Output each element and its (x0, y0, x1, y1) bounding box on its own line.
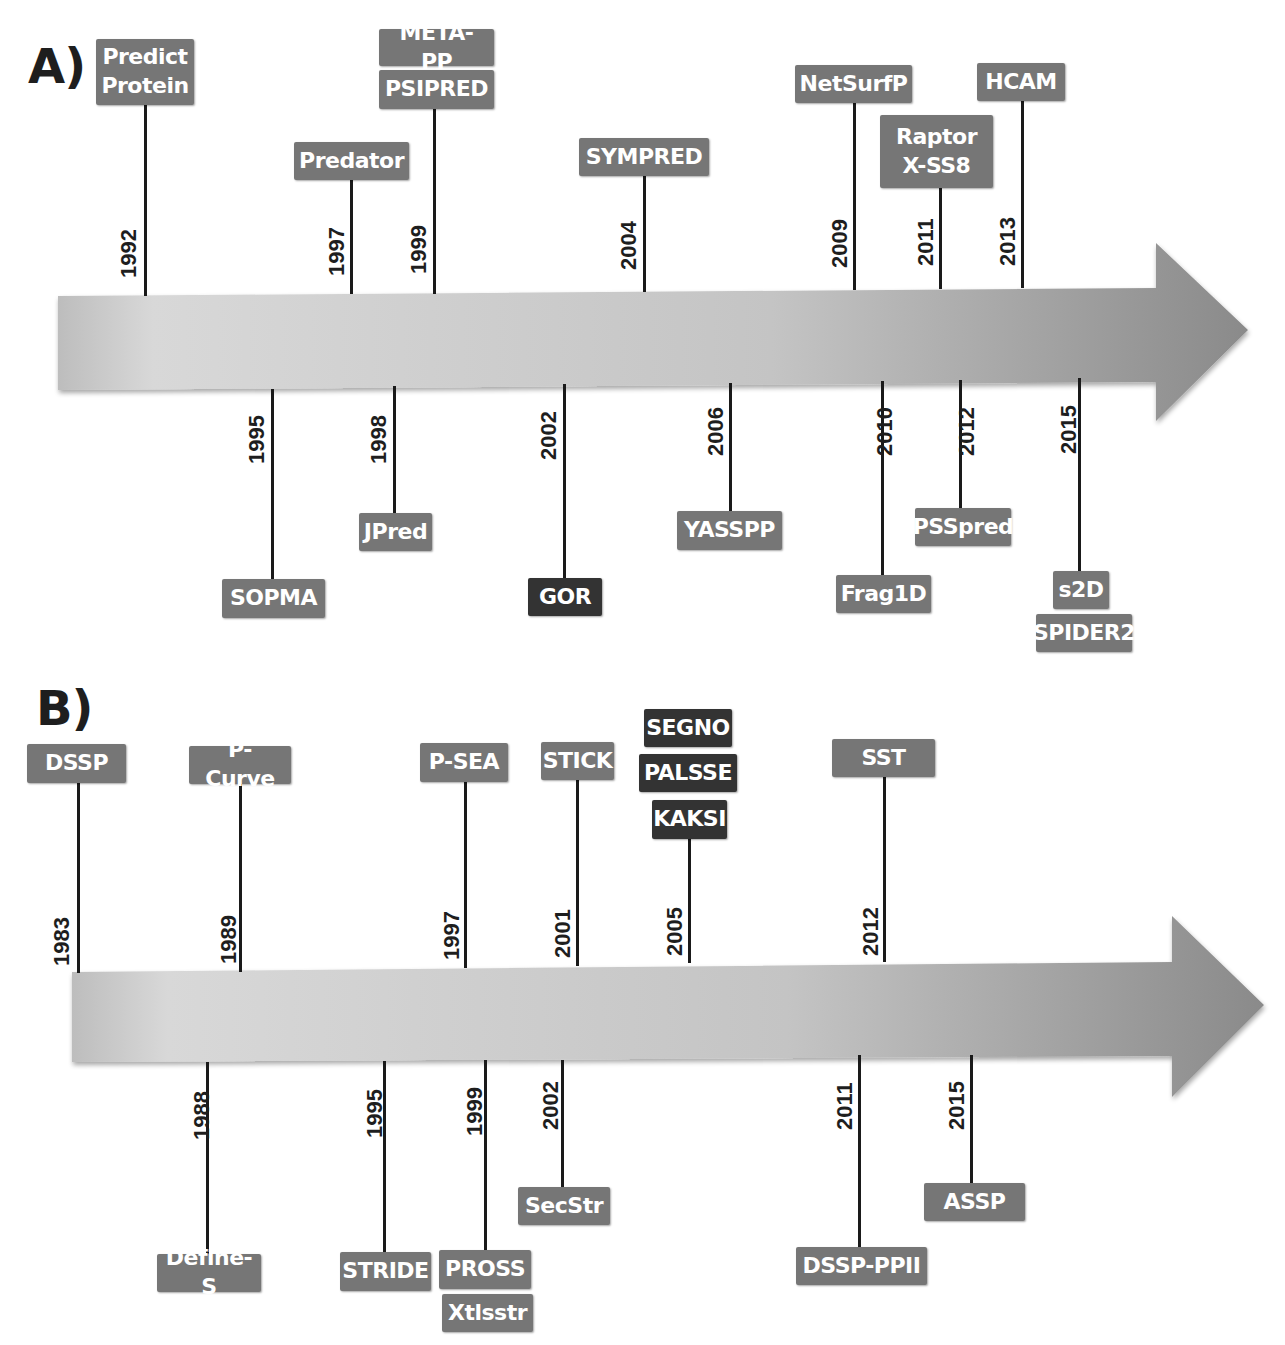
tag-kaksi: KAKSI (652, 800, 727, 839)
tag-dssp: DSSP (27, 744, 126, 783)
year-1989: 1989 (218, 915, 240, 964)
stem-2005 (688, 839, 691, 963)
stem-2001 (576, 780, 579, 966)
tag-palsse: PALSSE (639, 754, 737, 792)
year-2011b: 2011 (834, 1082, 856, 1130)
tag-pross: PROSS (439, 1250, 531, 1289)
year-1999b: 1999 (464, 1087, 486, 1136)
year-1983: 1983 (51, 917, 73, 966)
year-1997b: 1997 (441, 911, 463, 960)
year-2005: 2005 (664, 907, 686, 956)
stem-2012b (883, 777, 886, 962)
stem-1983 (77, 783, 80, 973)
stem-2015b (970, 1055, 973, 1183)
tag-sst: SST (832, 739, 935, 777)
year-1995b: 1995 (364, 1089, 386, 1138)
timeline-arrow-b (0, 0, 1285, 1345)
tag-stride: STRIDE (340, 1252, 431, 1291)
tag-secstr: SecStr (518, 1187, 610, 1225)
year-1988: 1988 (191, 1091, 213, 1140)
year-2002b: 2002 (540, 1081, 562, 1130)
tag-p-sea: P-SEA (420, 743, 508, 782)
tag-assp: ASSP (924, 1183, 1025, 1221)
tag-dssp-ppii: DSSP-PPII (796, 1247, 927, 1285)
year-2015b: 2015 (946, 1081, 968, 1130)
tag-define-s: Define-S (157, 1254, 261, 1292)
tag-xtlsstr: Xtlsstr (442, 1294, 533, 1332)
stem-1997b (464, 782, 467, 968)
year-2001: 2001 (552, 909, 574, 958)
tag-segno: SEGNO (644, 709, 732, 747)
stem-2011b (858, 1055, 861, 1247)
tag-p-curve: P-Curve (189, 746, 291, 784)
year-2012b: 2012 (860, 907, 882, 956)
tag-stick: STICK (541, 742, 614, 780)
